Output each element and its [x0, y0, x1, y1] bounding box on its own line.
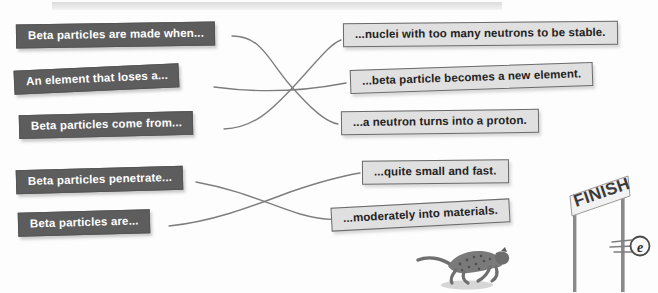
- answer-label-1: ...nuclei with too many neutrons to be s…: [355, 26, 606, 40]
- connector-p3-a1: [224, 40, 341, 129]
- connector-p1-a3: [232, 36, 338, 124]
- prompt-card-3[interactable]: Beta particles come from...: [19, 111, 194, 139]
- prompt-card-1[interactable]: Beta particles are made when...: [16, 21, 215, 48]
- answer-card-1[interactable]: ...nuclei with too many neutrons to be s…: [343, 21, 618, 48]
- prompt-label-3: Beta particles come from...: [31, 116, 182, 132]
- cheetah-tail: [418, 258, 450, 264]
- prompt-label-1: Beta particles are made when...: [28, 27, 204, 42]
- prompt-card-4[interactable]: Beta particles penetrate...: [16, 166, 184, 195]
- answer-label-4: ...quite small and fast.: [374, 164, 497, 177]
- answer-card-3[interactable]: ...a neutron turns into a proton.: [341, 109, 539, 136]
- prompt-label-4: Beta particles penetrate...: [28, 171, 172, 187]
- cheetah-ear: [501, 247, 507, 252]
- finish-line-illustration: FINISH e: [560, 166, 656, 293]
- answer-card-4[interactable]: ...quite small and fast.: [362, 159, 509, 184]
- electron-label: e: [637, 240, 643, 255]
- answer-label-2: ...beta particle becomes a new element.: [362, 67, 582, 86]
- cheetah-illustration: [412, 242, 516, 291]
- prompt-card-5[interactable]: Beta particles are...: [18, 209, 150, 237]
- connector-p2-a2: [214, 83, 346, 91]
- answer-label-3: ...a neutron turns into a proton.: [353, 114, 527, 128]
- finish-post-right: [621, 188, 625, 292]
- prompt-label-2: An element that loses a...: [26, 69, 168, 87]
- answer-label-5: ...moderately into materials.: [343, 204, 498, 224]
- matching-exercise-canvas: Beta particles are made when... An eleme…: [0, 0, 658, 293]
- prompt-label-5: Beta particles are...: [30, 214, 139, 229]
